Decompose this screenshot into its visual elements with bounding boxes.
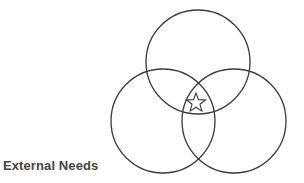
circle-left (111, 69, 215, 173)
circle-right (182, 69, 286, 173)
star-icon (186, 93, 205, 111)
external-needs-label: External Needs (3, 158, 98, 173)
venn-diagram (0, 0, 304, 183)
